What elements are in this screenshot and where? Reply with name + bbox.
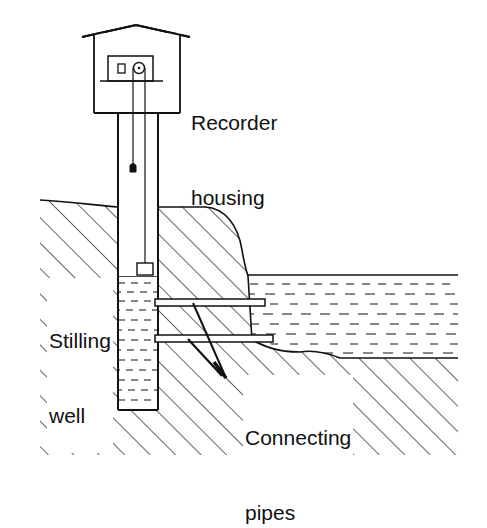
recorder-housing-label: Recorder housing bbox=[191, 60, 277, 235]
stilling-well-label-line2: well bbox=[49, 403, 111, 428]
recorder-housing-label-line1: Recorder bbox=[191, 110, 277, 135]
stream-water bbox=[248, 275, 460, 353]
stilling-well-label: Stilling well bbox=[47, 278, 113, 453]
recorder-housing-label-line2: housing bbox=[191, 185, 277, 210]
counterweight bbox=[130, 164, 136, 172]
connecting-pipes-label: Connecting pipes bbox=[243, 375, 353, 528]
float bbox=[137, 263, 153, 275]
connecting-pipes-label-line1: Connecting bbox=[245, 425, 351, 450]
stilling-well-label-line1: Stilling bbox=[49, 328, 111, 353]
connecting-pipes-label-line2: pipes bbox=[245, 500, 351, 525]
recorder bbox=[100, 56, 163, 81]
stilling-well bbox=[118, 113, 158, 410]
